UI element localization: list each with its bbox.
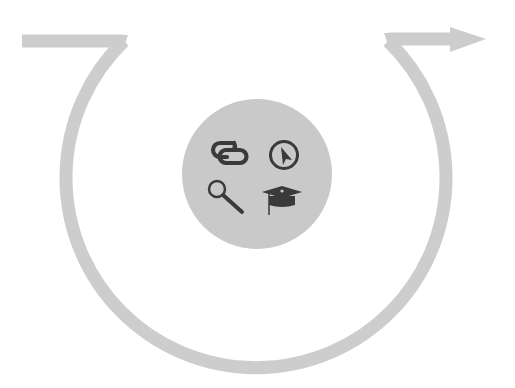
cycle-diagram <box>0 0 515 388</box>
hub-circle <box>182 99 332 249</box>
arrowhead-icon <box>450 27 486 52</box>
